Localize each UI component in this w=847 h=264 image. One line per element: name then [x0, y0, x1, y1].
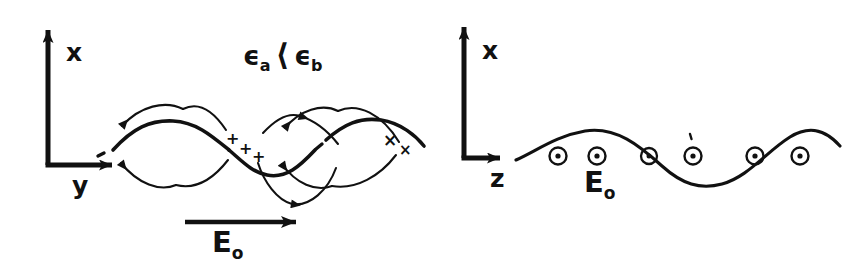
right-field-base: E — [584, 165, 604, 199]
surface-charge-cross: × — [399, 143, 412, 158]
right-field-label: Eo — [584, 168, 616, 202]
left-field-subscript: o — [232, 243, 244, 263]
left-axis-x-label: x — [66, 40, 82, 65]
right-field-subscript: o — [604, 183, 616, 203]
out-of-page-marker — [589, 148, 606, 165]
out-of-page-marker — [685, 134, 702, 165]
field-loop-upper-right-head — [285, 108, 338, 128]
left-field-label: Eo — [212, 228, 244, 262]
figure-canvas: x y ϵa⟨ϵb Eo + + + × × x z Eo — [0, 0, 847, 264]
right-axis-x-label: x — [482, 38, 498, 63]
diagram-svg — [0, 0, 847, 264]
surface-charge-plus: + — [239, 141, 252, 157]
out-of-page-markers — [550, 134, 809, 165]
epsilon-b-symbol: ϵ — [294, 41, 311, 71]
epsilon-b-subscript: b — [311, 56, 322, 75]
left-interface-dash-a — [98, 153, 104, 156]
surface-charge-plus: + — [252, 149, 265, 165]
out-of-page-marker — [792, 148, 809, 165]
field-loop-lower-left-head — [121, 163, 176, 187]
surface-charge-cross: × — [383, 132, 397, 149]
left-axis-y-label: y — [72, 173, 88, 198]
right-axis-z-label: z — [490, 166, 505, 191]
field-loop-lower-right-head — [282, 164, 332, 188]
field-loop-lower-right-tail — [332, 155, 396, 187]
epsilon-a-symbol: ϵ — [243, 41, 260, 71]
dielectric-condition-label: ϵa⟨ϵb — [243, 40, 323, 74]
field-loop-lower-left-tail — [176, 160, 228, 186]
surface-charge-plus: + — [226, 131, 239, 147]
left-interface-crest-1 — [113, 121, 229, 150]
out-of-page-marker — [641, 148, 657, 164]
less-than-symbol: ⟨ — [271, 37, 295, 72]
left-interface-dash-b — [316, 144, 322, 149]
field-loop-upper-middle-head — [300, 116, 338, 144]
field-loop-upper-left-tail — [183, 106, 226, 130]
out-of-page-marker — [747, 148, 764, 165]
left-field-base: E — [212, 225, 232, 259]
epsilon-a-subscript: a — [260, 56, 271, 75]
out-of-page-marker — [550, 148, 567, 165]
